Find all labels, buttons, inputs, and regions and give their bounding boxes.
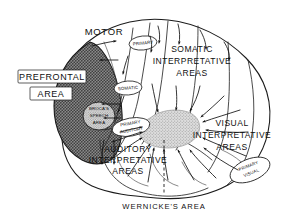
region-brocas-speech[interactable]: BROCA'S SPEECH AREA (83, 102, 115, 130)
arrow-motor-1 (123, 56, 128, 74)
region-motor[interactable]: MOTOR (85, 26, 124, 37)
prefrontal-label-line2: AREA (38, 89, 65, 99)
brocas-label-line3: AREA (93, 120, 105, 125)
arrow-somatic-2 (178, 24, 180, 44)
brain-diagram-figure: PREFRONTAL AREA (0, 0, 282, 218)
visual-interp-line3: AREAS (216, 142, 247, 152)
region-somatic[interactable]: SOMATIC (114, 80, 143, 96)
brain-diagram-svg: PREFRONTAL AREA (0, 0, 282, 218)
brocas-label-line2: SPEECH (90, 113, 109, 118)
arrow-wernicke-top-4 (201, 96, 224, 117)
visual-interp-line1: VISUAL (215, 118, 248, 128)
region-primary-motor[interactable]: PRIMARY (128, 35, 157, 52)
auditory-interp-line3: AREAS (112, 166, 143, 176)
arrow-somatic-1 (158, 26, 160, 43)
region-somatic-interpretative[interactable]: SOMATIC INTERPRETATIVE AREAS (153, 44, 231, 78)
somatic-interp-line2: INTERPRETATIVE (153, 56, 231, 66)
auditory-interp-line2: INTERPRETATIVE (89, 155, 167, 165)
auditory-interp-line1: AUDITORY (104, 144, 152, 154)
somatic-interp-line3: AREAS (176, 68, 207, 78)
arrow-visual-5 (178, 150, 194, 180)
arrow-wernicke-top-1 (152, 84, 158, 112)
prefrontal-label-line1: PREFRONTAL (19, 72, 85, 82)
region-primary-visual[interactable]: PRIMARY VISUAL (226, 152, 273, 188)
brocas-label-line1: BROCA'S (89, 106, 109, 111)
arrow-wernicke-top-2 (176, 86, 177, 110)
wernicke-caption: WERNICKE'S AREA (122, 202, 205, 211)
arrows-somatic-group (150, 24, 229, 60)
motor-label: MOTOR (85, 26, 124, 37)
region-visual-interpretative[interactable]: VISUAL INTERPRETATIVE AREAS (193, 118, 271, 152)
somatic-interp-line1: SOMATIC (171, 44, 213, 54)
